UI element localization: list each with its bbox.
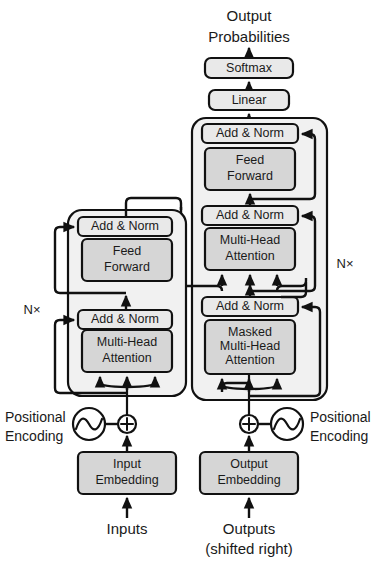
decoder-feed-forward-label-1: Feed	[236, 153, 265, 167]
encoder-repeat-label: N×	[24, 302, 41, 317]
decoder-repeat-label: N×	[337, 256, 354, 271]
output-probabilities-line2: Probabilities	[208, 28, 290, 45]
encoder-add-norm-lower-label: Add & Norm	[91, 312, 159, 326]
encoder-add-norm-upper-label: Add & Norm	[91, 219, 159, 233]
decoder-feed-forward-label-2: Forward	[227, 169, 273, 183]
input-embedding-label-1: Input	[113, 457, 141, 471]
input-embedding-label-2: Embedding	[95, 473, 158, 487]
decoder-add-norm-bottom-label: Add & Norm	[216, 299, 284, 313]
decoder-add-norm-middle-label: Add & Norm	[216, 208, 284, 222]
inputs-label: Inputs	[107, 520, 148, 537]
decoder-masked-attention-label-1: Masked	[228, 325, 272, 339]
output-embedding-label-1: Output	[230, 457, 268, 471]
outputs-label-line1: Outputs	[223, 520, 276, 537]
encoder-feed-forward-label-1: Feed	[113, 244, 142, 258]
decoder-masked-attention-label-2: Multi-Head	[220, 339, 280, 353]
encoder-attention-label-2: Attention	[102, 351, 151, 365]
input-positional-encoding-label-2: Encoding	[5, 428, 63, 444]
encoder-attention-label-1: Multi-Head	[97, 335, 157, 349]
output-probabilities-line1: Output	[226, 7, 272, 24]
output-positional-encoding-label-2: Encoding	[310, 428, 368, 444]
input-positional-encoding-label-1: Positional	[5, 409, 66, 425]
transformer-architecture-diagram: Output Probabilities Softmax Linear Mask…	[0, 0, 374, 566]
decoder-add-norm-top-label: Add & Norm	[216, 126, 284, 140]
output-embedding-label-2: Embedding	[217, 473, 280, 487]
decoder-cross-attention-label-2: Attention	[225, 249, 274, 263]
softmax-label: Softmax	[226, 61, 273, 75]
output-positional-encoding-label-1: Positional	[310, 409, 371, 425]
decoder-masked-attention-label-3: Attention	[225, 353, 274, 367]
figure-canvas: Output Probabilities Softmax Linear Mask…	[0, 0, 374, 566]
encoder-feed-forward-label-2: Forward	[104, 260, 150, 274]
decoder-cross-attention-label-1: Multi-Head	[220, 233, 280, 247]
outputs-label-line2: (shifted right)	[205, 540, 293, 557]
linear-label: Linear	[232, 93, 267, 107]
